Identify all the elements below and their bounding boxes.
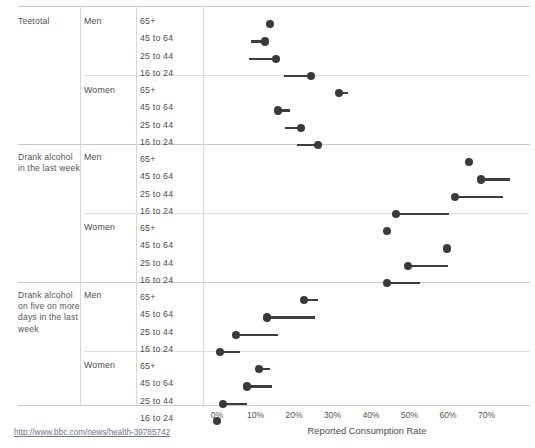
x-tick-label: 0% bbox=[211, 410, 223, 420]
measure-label-week: Drank alcohol in the last week bbox=[18, 152, 80, 174]
plot-area bbox=[204, 6, 530, 406]
range-bar bbox=[455, 196, 503, 198]
age-label: 45 to 64 bbox=[140, 33, 202, 44]
data-point-dot[interactable] bbox=[263, 313, 271, 321]
gender-label-women-1: Women bbox=[84, 85, 136, 96]
gender-label-women-3: Women bbox=[84, 360, 136, 371]
age-label: 25 to 44 bbox=[140, 51, 202, 62]
column-divider-gender bbox=[136, 6, 137, 405]
range-bar bbox=[236, 334, 278, 336]
age-label: 45 to 64 bbox=[140, 378, 202, 389]
data-point-dot[interactable] bbox=[443, 244, 451, 252]
age-label: 25 to 44 bbox=[140, 327, 202, 338]
data-point-dot[interactable] bbox=[314, 141, 322, 149]
data-point-dot[interactable] bbox=[255, 365, 263, 373]
range-bar bbox=[481, 178, 509, 180]
measure-label-teetotal: Teetotal bbox=[18, 16, 80, 27]
data-point-dot[interactable] bbox=[335, 89, 343, 97]
x-tick-label: 20% bbox=[285, 410, 302, 420]
data-point-dot[interactable] bbox=[232, 331, 240, 339]
data-point-dot[interactable] bbox=[300, 296, 308, 304]
data-point-dot[interactable] bbox=[219, 400, 227, 408]
age-label: 65+ bbox=[140, 223, 202, 234]
range-bar bbox=[267, 316, 315, 318]
age-label: 25 to 44 bbox=[140, 120, 202, 131]
column-divider-measure bbox=[80, 6, 81, 405]
age-label: 16 to 24 bbox=[140, 275, 202, 286]
x-tick-label: 10% bbox=[247, 410, 264, 420]
data-point-dot[interactable] bbox=[266, 20, 274, 28]
gender-label-men-1: Men bbox=[84, 16, 136, 27]
age-label: 45 to 64 bbox=[140, 309, 202, 320]
range-bar bbox=[408, 265, 448, 267]
age-label: 45 to 64 bbox=[140, 171, 202, 182]
data-point-dot[interactable] bbox=[243, 382, 251, 390]
age-label: 25 to 44 bbox=[140, 396, 202, 407]
data-point-dot[interactable] bbox=[297, 124, 305, 132]
range-bar bbox=[396, 213, 449, 215]
data-point-dot[interactable] bbox=[307, 72, 315, 80]
age-label: 16 to 24 bbox=[140, 68, 202, 79]
data-point-dot[interactable] bbox=[274, 106, 282, 114]
x-tick-label: 30% bbox=[324, 410, 341, 420]
age-label: 65+ bbox=[140, 292, 202, 303]
source-url-link[interactable]: http://www.bbc.com/news/health-39785742 bbox=[14, 428, 170, 437]
age-label: 16 to 24 bbox=[140, 137, 202, 148]
age-label: 16 to 24 bbox=[140, 344, 202, 355]
gender-label-women-2: Women bbox=[84, 222, 136, 233]
age-label: 65+ bbox=[140, 361, 202, 372]
age-label: 16 to 24 bbox=[140, 413, 202, 424]
x-tick-label: 60% bbox=[439, 410, 456, 420]
data-point-dot[interactable] bbox=[465, 158, 473, 166]
data-point-dot[interactable] bbox=[383, 279, 391, 287]
age-label: 16 to 24 bbox=[140, 206, 202, 217]
measure-label-fivedays: Drank alcohol on five on more days in th… bbox=[18, 290, 80, 335]
data-point-dot[interactable] bbox=[392, 210, 400, 218]
age-label: 25 to 44 bbox=[140, 258, 202, 269]
data-point-dot[interactable] bbox=[404, 262, 412, 270]
range-bar bbox=[387, 282, 420, 284]
age-label: 65+ bbox=[140, 154, 202, 165]
x-tick-label: 40% bbox=[362, 410, 379, 420]
age-label: 65+ bbox=[140, 85, 202, 96]
data-point-dot[interactable] bbox=[477, 175, 485, 183]
age-label: 65+ bbox=[140, 16, 202, 27]
x-axis-title: Reported Consumption Rate bbox=[204, 425, 530, 436]
gender-label-men-3: Men bbox=[84, 290, 136, 301]
age-label: 45 to 64 bbox=[140, 102, 202, 113]
dot-plot-chart: Teetotal Drank alcohol in the last week … bbox=[0, 0, 535, 448]
data-point-dot[interactable] bbox=[216, 348, 224, 356]
data-point-dot[interactable] bbox=[272, 55, 280, 63]
gender-label-men-2: Men bbox=[84, 152, 136, 163]
data-point-dot[interactable] bbox=[383, 227, 391, 235]
data-point-dot[interactable] bbox=[451, 193, 459, 201]
age-label: 25 to 44 bbox=[140, 189, 202, 200]
data-point-dot[interactable] bbox=[261, 37, 269, 45]
age-label: 45 to 64 bbox=[140, 240, 202, 251]
x-tick-label: 70% bbox=[478, 410, 495, 420]
x-tick-label: 50% bbox=[401, 410, 418, 420]
